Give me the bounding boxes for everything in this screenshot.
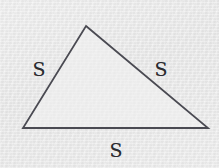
triangle-shape	[23, 26, 208, 128]
side-label-bottom: S	[109, 141, 122, 160]
side-label-left: S	[32, 60, 45, 79]
side-label-right: S	[154, 60, 167, 79]
triangle-figure-canvas: S S S	[0, 0, 219, 168]
